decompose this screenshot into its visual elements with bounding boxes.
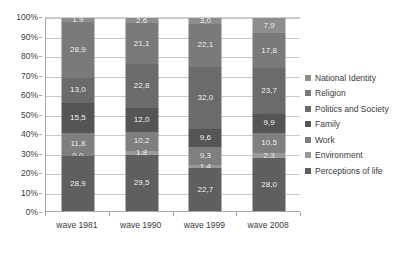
- bar-segment-value-label: 29,5: [134, 179, 150, 187]
- y-axis-tick-mark: [39, 154, 42, 155]
- legend-item[interactable]: Religion: [305, 86, 409, 102]
- bar-segment[interactable]: 22,8: [125, 64, 158, 108]
- bar-segment-value-label: 9,3: [200, 152, 211, 160]
- y-axis-tick-label: 80%: [21, 52, 38, 61]
- bar-segment-value-label: 10,2: [134, 137, 150, 145]
- bar-segment[interactable]: 9,9: [253, 114, 286, 133]
- legend-item[interactable]: Environment: [305, 148, 409, 164]
- bar-segment[interactable]: 9,6: [189, 129, 222, 148]
- bar-segment-value-label: 17,8: [261, 47, 277, 55]
- bar-segment[interactable]: 28,9: [61, 22, 94, 78]
- legend-item-label: Family: [315, 120, 340, 129]
- y-axis-tick-mark: [39, 56, 42, 57]
- legend-item[interactable]: Family: [305, 117, 409, 133]
- x-axis-tick-mark: [109, 212, 110, 216]
- legend-color-swatch-icon: [305, 121, 311, 127]
- bar-segment-value-label: 28,9: [70, 46, 86, 54]
- x-axis-tick-mark: [45, 212, 46, 216]
- x-axis-tick-label: wave 1981: [56, 220, 97, 230]
- legend-item[interactable]: Work: [305, 132, 409, 148]
- stacked-bar[interactable]: 2,621,122,812,010,21,829,5: [125, 18, 158, 212]
- x-axis-tick-mark: [300, 212, 301, 216]
- y-axis-tick-label: 30%: [21, 149, 38, 158]
- bar-segment-value-label: 9,6: [200, 134, 211, 142]
- legend-color-swatch-icon: [305, 168, 311, 174]
- bar-segment-value-label: 7,9: [264, 22, 275, 30]
- legend-color-swatch-icon: [305, 75, 311, 81]
- x-axis-tick-mark: [236, 212, 237, 216]
- legend-item-label: Religion: [315, 89, 346, 98]
- x-axis-tick-label: wave 1990: [120, 220, 161, 230]
- bar-segment[interactable]: 22,1: [189, 24, 222, 67]
- bar-segment-value-label: 23,7: [261, 87, 277, 95]
- bar-slot: 7,917,823,79,910,52,328,0: [237, 18, 301, 212]
- bar-segment[interactable]: 12,0: [125, 108, 158, 131]
- y-axis-tick-label: 40%: [21, 130, 38, 139]
- legend-color-swatch-icon: [305, 152, 311, 158]
- legend-color-swatch-icon: [305, 137, 311, 143]
- stacked-bar[interactable]: 7,917,823,79,910,52,328,0: [253, 18, 286, 212]
- x-axis: wave 1981wave 1990wave 1999wave 2008: [45, 212, 300, 234]
- x-axis-tick-label: wave 2008: [248, 220, 289, 230]
- y-axis-tick-mark: [39, 134, 42, 135]
- legend-color-swatch-icon: [305, 90, 311, 96]
- legend-item[interactable]: National Identity: [305, 70, 409, 86]
- stacked-bar[interactable]: 3,022,132,09,69,31,422,7: [189, 18, 222, 212]
- x-axis-tick-mark: [173, 212, 174, 216]
- y-axis-tick-mark: [39, 212, 42, 213]
- bar-segment[interactable]: 32,0: [189, 67, 222, 129]
- y-axis-tick-label: 10%: [21, 188, 38, 197]
- y-axis-tick-mark: [39, 37, 42, 38]
- y-axis-tick-label: 50%: [21, 110, 38, 119]
- bar-segment-value-label: 22,7: [198, 186, 214, 194]
- bar-segment-value-label: 11,8: [70, 140, 85, 148]
- y-axis-tick-label: 70%: [21, 71, 38, 80]
- legend-item-label: Environment: [315, 151, 363, 160]
- bar-segment[interactable]: 21,1: [125, 23, 158, 64]
- y-axis-tick-mark: [39, 95, 42, 96]
- legend-item-label: Perceptions of life: [315, 167, 383, 176]
- y-axis-tick-label: 90%: [21, 32, 38, 41]
- bar-segment-value-label: 32,0: [198, 94, 214, 102]
- y-axis-tick-label: 20%: [21, 169, 38, 178]
- bar-segment[interactable]: 23,7: [253, 68, 286, 114]
- stacked-bar[interactable]: 1,928,913,015,511,80,028,9: [61, 18, 94, 212]
- legend-item-label: Politics and Society: [315, 105, 389, 114]
- bar-segment-value-label: 28,9: [70, 180, 86, 188]
- y-axis-tick-mark: [39, 76, 42, 77]
- bar-segment-value-label: 22,8: [134, 82, 150, 90]
- bar-slot: 1,928,913,015,511,80,028,9: [46, 18, 110, 212]
- bar-segment-value-label: 22,1: [198, 41, 214, 49]
- bar-segment-value-label: 10,5: [261, 139, 277, 147]
- y-axis-tick-mark: [39, 193, 42, 194]
- bar-segment[interactable]: 29,5: [125, 155, 158, 212]
- legend-item[interactable]: Politics and Society: [305, 101, 409, 117]
- chart-legend: National IdentityReligionPolitics and So…: [305, 70, 409, 179]
- bar-segment[interactable]: 22,7: [189, 168, 222, 212]
- y-axis-tick-label: 100%: [16, 13, 38, 22]
- bar-segment-value-label: 12,0: [134, 116, 150, 124]
- bar-segment-value-label: 13,0: [70, 86, 86, 94]
- y-axis: 0%10%20%30%40%50%60%70%80%90%100%: [0, 17, 42, 212]
- bar-slot: 2,621,122,812,010,21,829,5: [110, 18, 174, 212]
- plot-area: 1,928,913,015,511,80,028,92,621,122,812,…: [45, 17, 300, 212]
- y-axis-tick-label: 0%: [26, 208, 38, 217]
- legend-item-label: National Identity: [315, 74, 376, 83]
- bar-slot: 3,022,132,09,69,31,422,7: [174, 18, 238, 212]
- bar-segment[interactable]: 28,9: [61, 156, 94, 212]
- bar-segment[interactable]: 17,8: [253, 33, 286, 68]
- bar-segment[interactable]: 7,9: [253, 18, 286, 33]
- y-axis-tick-label: 60%: [21, 91, 38, 100]
- legend-item[interactable]: Perceptions of life: [305, 163, 409, 179]
- bar-segment[interactable]: 15,5: [61, 103, 94, 133]
- legend-item-label: Work: [315, 136, 335, 145]
- y-axis-tick-mark: [39, 17, 42, 18]
- bar-segment[interactable]: 13,0: [61, 78, 94, 103]
- bar-segment[interactable]: 28,0: [253, 158, 286, 212]
- stacked-bar-chart: 0%10%20%30%40%50%60%70%80%90%100% 1,928,…: [0, 0, 409, 256]
- y-axis-tick-mark: [39, 173, 42, 174]
- x-axis-tick-label: wave 1999: [184, 220, 225, 230]
- legend-color-swatch-icon: [305, 106, 311, 112]
- bar-segment-value-label: 15,5: [70, 114, 86, 122]
- bar-segment-value-label: 28,0: [261, 181, 277, 189]
